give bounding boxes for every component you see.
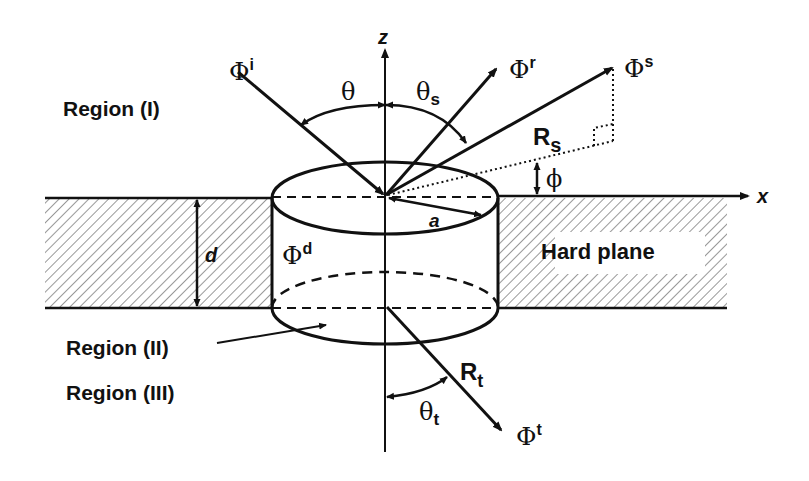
label-r-s: Rs (533, 123, 561, 156)
label-theta-t: θt (419, 398, 439, 429)
label-r-t: Rt (460, 358, 483, 391)
label-phi-scattered: Φs (624, 53, 654, 83)
label-region-iii: Region (III) (66, 381, 175, 404)
incident-ray (238, 72, 383, 194)
label-phi-angle: ϕ (546, 165, 562, 193)
label-theta: θ (341, 78, 355, 106)
label-hard-plane: Hard plane (541, 239, 655, 264)
reflected-ray (386, 69, 496, 195)
theta-s-arc (386, 105, 466, 143)
label-theta-s: θs (416, 78, 440, 109)
diagram-canvas: Region (I) Region (II) Region (III) Hard… (0, 0, 809, 481)
label-region-i: Region (I) (63, 97, 160, 120)
label-phi-reflected: Φr (509, 54, 536, 84)
label-region-ii: Region (II) (66, 336, 169, 359)
label-radius-a: a (429, 210, 440, 231)
theta-arc (301, 105, 385, 125)
label-phi-transmitted: Φt (516, 421, 543, 451)
label-z-axis: z (377, 26, 388, 48)
label-x-axis: x (756, 185, 769, 207)
label-thickness-d: d (205, 244, 218, 266)
theta-t-arc (387, 377, 447, 397)
label-phi-interior: Φd (282, 240, 312, 270)
